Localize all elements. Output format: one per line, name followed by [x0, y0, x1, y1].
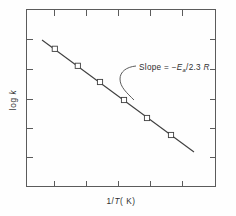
- annotation-leader-line: [120, 66, 136, 100]
- y-axis-label-variable: k: [9, 90, 18, 95]
- data-point: [168, 132, 173, 137]
- plot-canvas: Slope = −Ea/2.3 R 1/T( K) log k: [0, 0, 236, 216]
- y-axis-label: log k: [9, 90, 18, 111]
- slope-annotation-prefix: Slope = −: [139, 63, 177, 72]
- top-axis-ticks: [55, 10, 183, 16]
- data-point: [52, 46, 57, 51]
- right-axis-ticks: [210, 40, 216, 158]
- x-axis-label: 1/T( K): [106, 197, 135, 206]
- x-axis-ticks: [55, 181, 183, 187]
- data-point: [121, 97, 126, 102]
- arrhenius-figure: Slope = −Ea/2.3 R 1/T( K) log k: [0, 0, 236, 216]
- slope-annotation-suffix: /2.3: [186, 63, 203, 72]
- y-axis-ticks: [27, 40, 33, 158]
- slope-annotation-constant: R: [204, 63, 210, 72]
- data-point: [144, 115, 149, 120]
- x-axis-label-prefix: 1/: [106, 197, 114, 206]
- x-axis-label-units: ( K): [120, 197, 136, 206]
- slope-annotation: Slope = −Ea/2.3 R: [139, 63, 210, 73]
- data-point: [75, 63, 80, 68]
- y-axis-label-prefix: log: [9, 95, 18, 111]
- data-point: [97, 79, 102, 84]
